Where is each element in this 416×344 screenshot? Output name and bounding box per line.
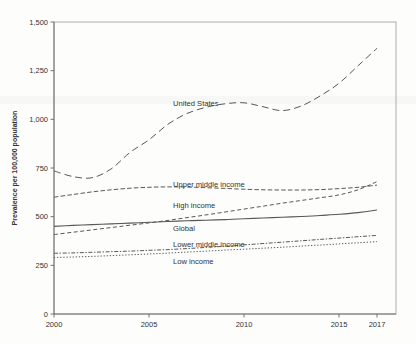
series-label-lower-middle-income: Lower middle income [173,240,245,249]
y-tick-label: 1,500 [29,18,48,27]
series-line-united-states [54,48,377,178]
series-label-global: Global [173,224,195,233]
x-tick-label: 2017 [369,320,386,329]
series-label-low-income: Low income [173,257,214,266]
x-tick-label: 2005 [141,320,158,329]
chart-page: 02505007501,0001,2501,500200020052010201… [0,0,416,344]
y-axis-title: Prevalence per 100,000 population [11,111,19,226]
y-tick-label: 1,000 [29,115,48,124]
plot-frame [54,22,396,314]
x-tick-label: 2010 [236,320,253,329]
series-label-upper-middle-income: Upper middle income [173,180,245,189]
series-label-high-income: High income [173,201,215,210]
series-line-global [54,210,377,226]
y-tick-label: 250 [35,261,48,270]
prevalence-line-chart: 02505007501,0001,2501,500200020052010201… [0,0,416,344]
y-tick-label: 500 [35,212,48,221]
y-tick-label: 0 [44,310,48,319]
x-tick-label: 2000 [46,320,63,329]
y-tick-label: 1,250 [29,66,48,75]
x-tick-label: 2015 [331,320,348,329]
y-tick-label: 750 [35,164,48,173]
series-label-united-states: United States [173,99,219,108]
